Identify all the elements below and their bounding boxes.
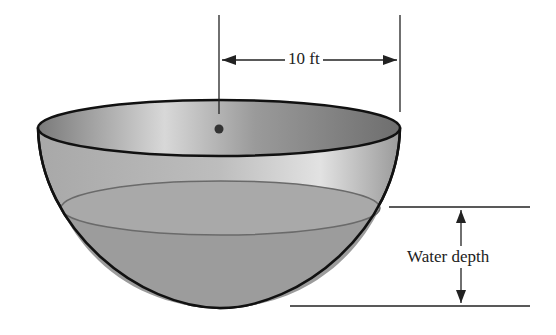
- radius-label: 10 ft: [285, 50, 323, 68]
- bowl-diagram: [0, 0, 556, 335]
- depth-label: Water depth: [405, 246, 491, 268]
- center-point: [215, 125, 224, 134]
- water-surface: [61, 181, 380, 235]
